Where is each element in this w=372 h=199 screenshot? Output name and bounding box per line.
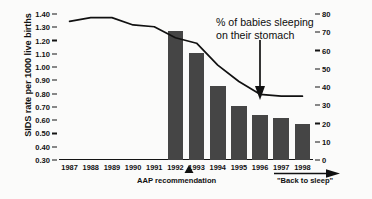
y-tick-right: 50 — [313, 64, 330, 73]
y-tick-right: 30 — [313, 101, 330, 110]
y-tick-left: 0.70 — [35, 102, 59, 111]
y-tick-right: 80 — [313, 10, 330, 19]
x-tick-1994: 1994 — [210, 163, 226, 172]
x-tick-1989: 1989 — [104, 163, 120, 172]
sids-chart-figure: SIDS rate per 1000 live births 1.401.301… — [0, 0, 372, 199]
x-tick-1992: 1992 — [167, 163, 183, 172]
y-tick-left: 0.30 — [35, 156, 59, 165]
y-tick-right: 10 — [313, 137, 330, 146]
x-tick-1990: 1990 — [125, 163, 141, 172]
x-tick-1996: 1996 — [252, 163, 268, 172]
x-tick-1991: 1991 — [146, 163, 162, 172]
y-tick-left: 0.80 — [35, 89, 59, 98]
stomach-sleeping-annotation-text: % of babies sleeping on their stomach — [216, 16, 314, 41]
y-tick-left: 1.00 — [35, 63, 59, 72]
y-tick-left: 0.40 — [35, 142, 59, 151]
back-to-sleep-label: "Back to sleep" — [277, 176, 333, 185]
x-tick-1987: 1987 — [61, 163, 77, 172]
y-tick-right: 0 — [313, 156, 326, 165]
y-tick-left: 1.30 — [35, 23, 59, 32]
y-tick-left: 1.10 — [35, 49, 59, 58]
y-axis-left-title: SIDS rate per 1000 live births — [23, 0, 33, 150]
x-tick-1995: 1995 — [231, 163, 247, 172]
y-tick-right: 70 — [313, 28, 330, 37]
y-tick-right: 20 — [313, 119, 330, 128]
y-tick-right: 60 — [313, 46, 330, 55]
annotation-line-1: % of babies sleeping — [216, 16, 314, 28]
x-tick-1988: 1988 — [83, 163, 99, 172]
y-tick-left: 1.20 — [35, 36, 59, 45]
y-tick-right: 40 — [313, 83, 330, 92]
aap-recommendation-label: AAP recommendation — [137, 176, 216, 185]
y-tick-left: 0.60 — [35, 116, 59, 125]
y-tick-left: 1.40 — [35, 10, 59, 19]
y-tick-left: 0.50 — [35, 129, 59, 138]
stomach-sleeping-arrow-icon — [252, 40, 268, 102]
y-tick-left: 0.90 — [35, 76, 59, 85]
